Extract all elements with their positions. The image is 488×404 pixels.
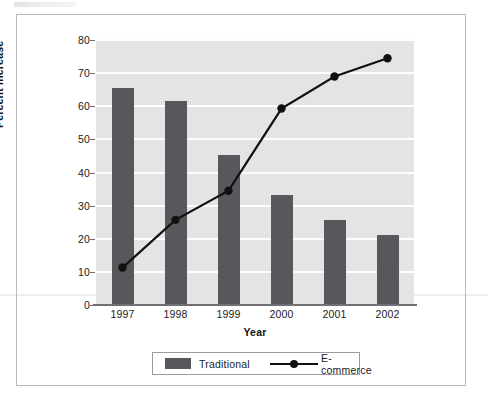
y-axis-tick-mark [90, 239, 95, 240]
y-axis-tick-mark [90, 40, 95, 41]
y-tick-label: 50 [64, 133, 90, 145]
y-axis-tick-mark [90, 272, 95, 273]
y-axis-tick-mark [90, 206, 95, 207]
x-tick-label: 2000 [255, 308, 308, 320]
y-tick-label: 30 [64, 200, 90, 212]
y-tick-label: 40 [64, 167, 90, 179]
legend-line-marker-icon [270, 358, 313, 369]
legend-label-traditional: Traditional [199, 358, 250, 370]
line-series-ecommerce [96, 40, 414, 305]
legend-label-ecommerce: E-commerce [321, 352, 376, 376]
y-tick-label: 20 [64, 233, 90, 245]
line-path [123, 58, 388, 267]
line-marker [330, 72, 338, 80]
y-tick-label: 10 [64, 266, 90, 278]
y-axis-ticks: 01020304050607080 [62, 0, 90, 404]
y-axis-tick-mark [90, 173, 95, 174]
x-tick-label: 2001 [308, 308, 361, 320]
y-tick-label: 0 [64, 299, 90, 311]
y-axis-tick-mark [90, 305, 95, 306]
y-tick-label: 60 [64, 100, 90, 112]
legend-item-ecommerce[interactable]: E-commerce [270, 353, 377, 374]
y-axis-title: Percent Increase [0, 41, 5, 128]
line-marker [383, 54, 391, 62]
x-tick-label: 2002 [361, 308, 414, 320]
y-tick-label: 80 [64, 34, 90, 46]
x-tick-label: 1998 [149, 308, 202, 320]
y-axis-tick-mark [90, 139, 95, 140]
chart-legend: Traditional E-commerce [152, 352, 360, 375]
legend-swatch-icon [165, 358, 191, 369]
y-tick-label: 70 [64, 67, 90, 79]
x-axis-ticks: 199719981999200020012002 [96, 308, 414, 324]
line-marker [224, 187, 232, 195]
y-axis-tick-mark [90, 73, 95, 74]
plot-area [96, 40, 414, 305]
x-axis-title: Year [96, 326, 414, 338]
legend-item-traditional[interactable]: Traditional [165, 353, 250, 374]
line-marker [171, 216, 179, 224]
x-tick-label: 1997 [96, 308, 149, 320]
line-marker [118, 263, 126, 271]
y-axis-tick-mark [90, 106, 95, 107]
x-tick-label: 1999 [202, 308, 255, 320]
line-marker [277, 104, 285, 112]
x-axis-line [93, 304, 417, 306]
